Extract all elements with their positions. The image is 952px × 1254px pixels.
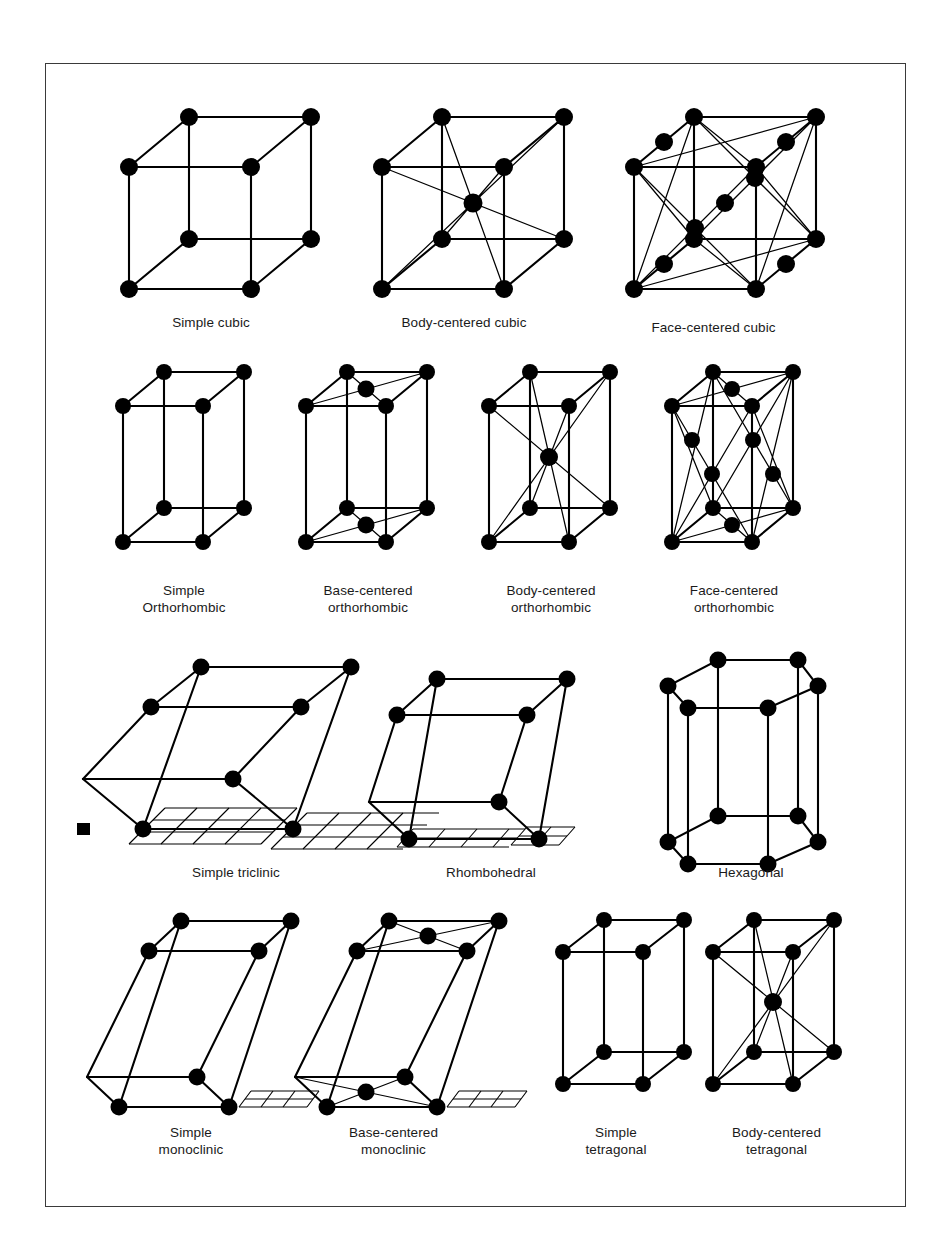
- base-center-top: [420, 928, 437, 945]
- label-body-centered-tetragonal: Body-centered tetragonal: [684, 1124, 869, 1158]
- lattice-base-centered-orthorhombic: [294, 364, 439, 574]
- label-face-centered-cubic: Face-centered cubic: [606, 319, 821, 336]
- face-center-bottom: [724, 517, 740, 533]
- lattice-body-centered-tetragonal: [701, 912, 846, 1112]
- face-center-front: [684, 432, 700, 448]
- label-simple-tetragonal: Simple tetragonal: [541, 1124, 691, 1158]
- face-center-back: [765, 466, 781, 482]
- lattice-rhombohedral: [391, 659, 591, 869]
- lattice-simple-triclinic: [121, 649, 411, 864]
- face-center-middle: [716, 194, 734, 212]
- ground-plane-grid: [447, 1091, 527, 1107]
- face-center-front: [686, 219, 704, 237]
- ground-plane-grid: [239, 1091, 319, 1107]
- face-center-left: [704, 466, 720, 482]
- label-face-centered-orthorhombic: Face-centered orthorhombic: [634, 582, 834, 616]
- lattice-simple-orthorhombic: [111, 364, 256, 574]
- lattice-hexagonal: [656, 646, 841, 871]
- base-center-bottom: [358, 1084, 375, 1101]
- label-hexagonal: Hexagonal: [661, 864, 841, 881]
- lattice-base-centered-monoclinic: [319, 909, 529, 1124]
- label-simple-monoclinic: Simple monoclinic: [116, 1124, 266, 1158]
- face-center-right: [745, 432, 761, 448]
- lattice-face-centered-orthorhombic: [660, 364, 805, 574]
- lattice-face-centered-cubic: [616, 109, 816, 304]
- base-center-top: [358, 381, 375, 398]
- face-center-top: [724, 381, 740, 397]
- face-center-right: [777, 133, 795, 151]
- base-center-bottom: [358, 517, 375, 534]
- label-body-centered-cubic: Body-centered cubic: [359, 314, 569, 331]
- ground-plane-grid: [397, 827, 575, 847]
- lattice-body-centered-orthorhombic: [477, 364, 622, 574]
- lattice-body-centered-cubic: [364, 109, 564, 304]
- lattice-simple-monoclinic: [111, 909, 321, 1124]
- lattice-simple-tetragonal: [551, 912, 696, 1112]
- face-center-bottom: [777, 255, 795, 273]
- face-center-back: [746, 169, 764, 187]
- label-base-centered-orthorhombic: Base-centered orthorhombic: [268, 582, 468, 616]
- body-center-vertex: [540, 448, 558, 466]
- figure-frame: Simple cubic Body-centered cubic: [45, 63, 906, 1207]
- face-center-top: [655, 133, 673, 151]
- label-simple-triclinic: Simple triclinic: [141, 864, 331, 881]
- label-simple-orthorhombic: Simple Orthorhombic: [94, 582, 274, 616]
- label-simple-cubic: Simple cubic: [131, 314, 291, 331]
- lattice-simple-cubic: [111, 109, 311, 304]
- label-base-centered-monoclinic: Base-centered monoclinic: [301, 1124, 486, 1158]
- body-center-vertex: [464, 194, 483, 213]
- body-center-vertex: [764, 993, 782, 1011]
- label-body-centered-orthorhombic: Body-centered orthorhombic: [451, 582, 651, 616]
- face-center-left: [655, 255, 673, 273]
- label-rhombohedral: Rhombohedral: [401, 864, 581, 881]
